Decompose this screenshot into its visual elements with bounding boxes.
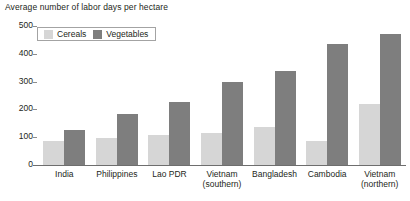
x-axis-label-line: Cambodia (301, 169, 354, 179)
y-tick-label: 100 (19, 132, 33, 141)
bar-cereals (148, 135, 169, 165)
x-axis-label: Cambodia (301, 169, 354, 179)
x-axis-label: Lao PDR (143, 169, 196, 179)
bar-cereals (96, 138, 117, 165)
y-tick-mark (33, 82, 37, 83)
legend-swatch-icon (44, 30, 53, 39)
bar-vegetables (327, 44, 348, 165)
y-tick-label: 200 (19, 104, 33, 113)
bar-group (254, 22, 296, 165)
x-axis-label: India (38, 169, 91, 179)
y-tick-label: 400 (19, 49, 33, 58)
legend-item-cereals[interactable]: Cereals (44, 30, 86, 39)
bar-vegetables (169, 102, 190, 165)
x-axis-label-line: (southern) (196, 179, 249, 189)
bar-group (96, 22, 138, 165)
bar-group (306, 22, 348, 165)
legend-label: Cereals (57, 30, 86, 39)
x-axis-label-line: Vietnam (353, 169, 406, 179)
y-tick-label: 500 (19, 21, 33, 30)
bar-vegetables (64, 130, 85, 165)
x-axis-label-line: India (38, 169, 91, 179)
bar-cereals (306, 141, 327, 165)
bar-group (201, 22, 243, 165)
x-axis-line (33, 165, 406, 166)
bar-group (43, 22, 85, 165)
x-axis-label-line: (northern) (353, 179, 406, 189)
bar-chart: Average number of labor days per hectare… (0, 0, 410, 201)
bar-vegetables (380, 34, 401, 165)
y-tick-mark (33, 54, 37, 55)
bar-group (359, 22, 401, 165)
y-axis: 0100200300400500 (0, 0, 38, 201)
bar-vegetables (222, 82, 243, 165)
x-axis-label-line: Vietnam (196, 169, 249, 179)
bar-group (148, 22, 190, 165)
x-axis-label: Vietnam(southern) (196, 169, 249, 189)
y-tick-mark (33, 109, 37, 110)
legend-swatch-icon (93, 30, 102, 39)
bar-vegetables (275, 71, 296, 165)
chart-legend: CerealsVegetables (37, 27, 156, 41)
y-tick-mark (33, 137, 37, 138)
y-tick-label: 300 (19, 77, 33, 86)
x-axis-label: Bangladesh (248, 169, 301, 179)
x-axis-label: Philippines (91, 169, 144, 179)
bar-cereals (254, 127, 275, 165)
bar-cereals (43, 141, 64, 165)
legend-item-vegetables[interactable]: Vegetables (93, 30, 148, 39)
x-axis-label-line: Philippines (91, 169, 144, 179)
legend-label: Vegetables (106, 30, 148, 39)
x-axis-label: Vietnam(northern) (353, 169, 406, 189)
x-axis-label-line: Bangladesh (248, 169, 301, 179)
bar-cereals (359, 104, 380, 165)
bar-cereals (201, 133, 222, 165)
plot-area (38, 22, 406, 165)
bar-vegetables (117, 114, 138, 165)
x-axis-label-line: Lao PDR (143, 169, 196, 179)
